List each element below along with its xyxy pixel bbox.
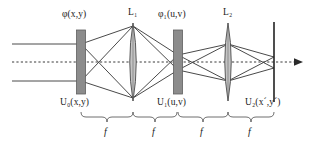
phi1-uv-plate bbox=[174, 30, 183, 94]
label-f4: f bbox=[248, 126, 251, 137]
label-u0-xy: U₀(x,y) bbox=[60, 98, 89, 108]
label-lens-L2: L₂ bbox=[223, 8, 232, 18]
label-u1-uv: U₁(u,v) bbox=[157, 98, 186, 108]
phi-xy-plate bbox=[77, 30, 86, 94]
ray-1c bbox=[81, 26, 133, 81]
ray-2b bbox=[133, 70, 178, 98]
label-phi-xy: φ(x,y) bbox=[62, 10, 86, 20]
ray-3c bbox=[178, 55, 228, 81]
label-phi1-uv: φ₁(u,v) bbox=[158, 10, 186, 20]
ray-3b bbox=[178, 70, 228, 81]
distance-braces bbox=[81, 112, 274, 122]
ray-2c bbox=[133, 26, 178, 70]
label-f3: f bbox=[200, 126, 203, 137]
ray-2d bbox=[133, 55, 178, 98]
ray-4c bbox=[228, 44, 274, 68]
label-u2-xp-yp: U₂(x´,y´) bbox=[245, 98, 281, 108]
brace-f2 bbox=[133, 112, 177, 122]
ray-3a bbox=[178, 44, 228, 55]
ray-4d bbox=[228, 57, 274, 81]
ray-2a bbox=[133, 26, 178, 55]
brace-f1 bbox=[81, 112, 133, 122]
optical-4f-system-diagram: φ(x,y) L₁ φ₁(u,v) L₂ U₀(x,y) U₁(u,v) U₂(… bbox=[0, 0, 313, 145]
ray-3d bbox=[178, 44, 228, 70]
brace-f4 bbox=[228, 112, 274, 122]
ray-4b bbox=[228, 68, 274, 81]
label-lens-L1: L₁ bbox=[128, 8, 137, 18]
label-f2: f bbox=[152, 126, 155, 137]
optical-axis-arrowhead bbox=[294, 58, 303, 66]
label-f1: f bbox=[104, 126, 107, 137]
ray-1a bbox=[81, 26, 133, 44]
brace-f3 bbox=[178, 112, 228, 122]
ray-4a bbox=[228, 44, 274, 57]
diagram-canvas bbox=[0, 0, 313, 145]
